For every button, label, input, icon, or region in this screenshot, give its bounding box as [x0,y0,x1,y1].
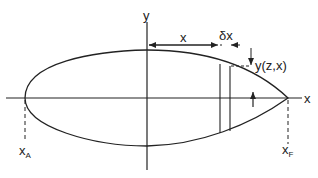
x-dimension-label: x [180,30,187,45]
airfoil-diagram: y x x δx y(z,x) xA xF [0,0,318,178]
y-axis-label: y [143,8,150,23]
xF-label: xF [282,142,294,159]
dx-label: δx [219,28,233,43]
x-axis-label: x [304,91,311,106]
yzx-label: y(z,x) [255,58,287,73]
xA-label: xA [19,143,32,160]
